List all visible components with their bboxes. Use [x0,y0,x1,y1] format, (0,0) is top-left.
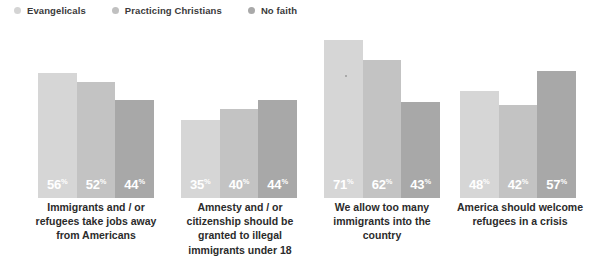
image-speck-artifact [345,75,347,77]
percent-symbol: % [100,177,107,186]
category-caption-4: America should welcome refugees in a cri… [450,200,590,228]
percent-symbol: % [560,177,567,186]
legend-item-practicing-christians: Practicing Christians [112,5,222,16]
bar-group-4: 48%42%57% [460,20,576,198]
legend-label-no-faith: No faith [261,5,297,16]
bar-group-3: 71%62%43% [324,20,440,198]
percent-symbol: % [522,177,529,186]
bar-value-label: 44% [124,178,145,198]
bar-no-faith-2[interactable]: 44% [258,100,297,198]
percent-symbol: % [483,177,490,186]
percent-symbol: % [424,177,431,186]
plot-area: 56%52%44%35%40%44%71%62%43%48%42%57% [0,20,598,198]
bar-value-label: 42% [508,178,529,198]
bar-group-bars: 56%52%44% [38,20,154,198]
category-caption-3: We allow too many immigrants into the co… [313,200,451,243]
category-caption-2: Amnesty and / or citizenship should be g… [170,200,310,257]
category-captions: Immigrants and / or refugees take jobs a… [0,200,598,274]
bar-value-label: 48% [469,178,490,198]
bar-practicing-christians-2[interactable]: 40% [220,109,259,198]
bar-evangelicals-4[interactable]: 48% [460,91,499,198]
percent-symbol: % [61,177,68,186]
bar-group-bars: 48%42%57% [460,20,576,198]
bar-no-faith-4[interactable]: 57% [537,71,576,198]
bar-group-2: 35%40%44% [181,20,297,198]
bar-value-label: 44% [267,178,288,198]
legend-item-evangelicals: Evangelicals [14,5,86,16]
percent-symbol: % [138,177,145,186]
percent-symbol: % [347,177,354,186]
bar-value-label: 57% [546,178,567,198]
bar-practicing-christians-1[interactable]: 52% [77,82,116,198]
bar-value-label: 43% [410,178,431,198]
legend-dot-practicing-christians [112,7,119,14]
bar-value-label: 40% [229,178,250,198]
bar-practicing-christians-4[interactable]: 42% [499,105,538,198]
bar-value-label: 56% [47,178,68,198]
legend-item-no-faith: No faith [248,5,297,16]
bar-no-faith-1[interactable]: 44% [115,100,154,198]
bar-group-bars: 71%62%43% [324,20,440,198]
chart-legend: Evangelicals Practicing Christians No fa… [0,0,598,20]
bar-group-bars: 35%40%44% [181,20,297,198]
bar-evangelicals-2[interactable]: 35% [181,120,220,198]
bar-value-label: 62% [372,178,393,198]
bar-value-label: 52% [86,178,107,198]
grouped-bar-chart: Evangelicals Practicing Christians No fa… [0,0,598,274]
bar-evangelicals-3[interactable]: 71% [324,40,363,198]
percent-symbol: % [281,177,288,186]
bar-value-label: 71% [333,178,354,198]
percent-symbol: % [204,177,211,186]
bar-practicing-christians-3[interactable]: 62% [363,60,402,198]
legend-label-practicing-christians: Practicing Christians [125,5,222,16]
bar-no-faith-3[interactable]: 43% [401,102,440,198]
legend-dot-no-faith [248,7,255,14]
bar-value-label: 35% [190,178,211,198]
bar-evangelicals-1[interactable]: 56% [38,73,77,198]
category-caption-1: Immigrants and / or refugees take jobs a… [30,200,162,243]
bar-group-1: 56%52%44% [38,20,154,198]
legend-label-evangelicals: Evangelicals [27,5,86,16]
percent-symbol: % [386,177,393,186]
percent-symbol: % [243,177,250,186]
legend-dot-evangelicals [14,7,21,14]
